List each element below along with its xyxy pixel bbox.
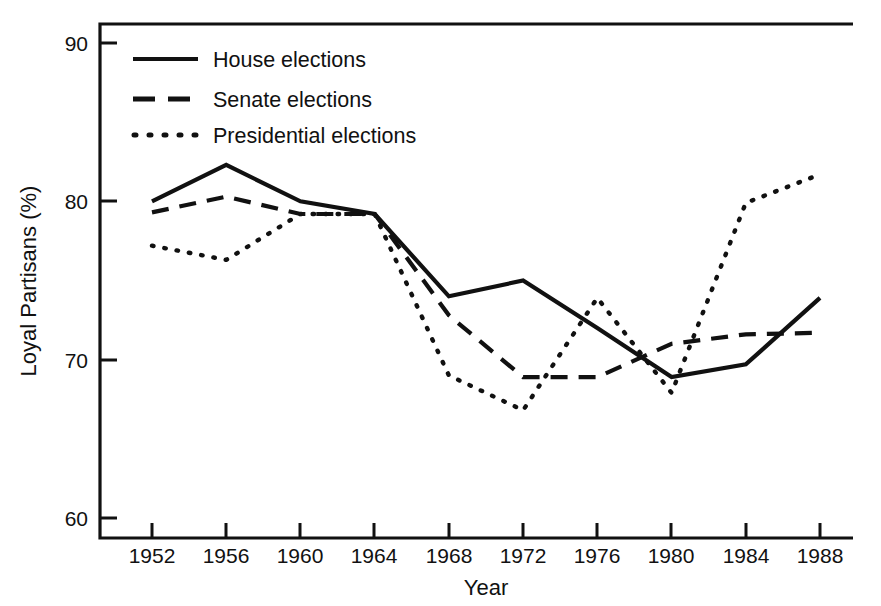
y-ticklabel-80: 80 [65,190,88,213]
y-axis-label: Loyal Partisans (%) [16,186,41,377]
chart-legend: House elections Senate elections Preside… [133,48,416,148]
series-line-presidential-elections [152,174,820,410]
legend-label-presidential-elections: Presidential elections [213,124,416,148]
y-ticklabel-60: 60 [65,507,88,530]
legend-label-senate-elections: Senate elections [213,88,372,112]
legend-item-house-elections: House elections [133,48,366,72]
line-chart: 90 80 70 60 Loyal Partisans (%) 1952 195… [0,0,881,606]
legend-item-senate-elections: Senate elections [133,88,372,112]
x-ticklabel-1988: 1988 [797,544,844,567]
x-ticklabel-1980: 1980 [648,544,695,567]
series-group [152,165,820,410]
x-ticklabel-1984: 1984 [723,544,770,567]
x-ticklabel-1976: 1976 [574,544,621,567]
x-ticklabel-1956: 1956 [203,544,250,567]
x-axis-ticks [152,523,820,538]
chart-figure: 90 80 70 60 Loyal Partisans (%) 1952 195… [0,0,881,606]
legend-label-house-elections: House elections [213,48,366,72]
x-ticklabel-1964: 1964 [351,544,398,567]
x-ticklabel-1972: 1972 [500,544,547,567]
y-axis-tick-labels: 90 80 70 60 [65,32,88,530]
y-ticklabel-90: 90 [65,32,88,55]
y-axis-ticks [100,43,117,518]
x-axis-tick-labels: 1952 1956 1960 1964 1968 1972 1976 1980 … [129,544,844,567]
y-ticklabel-70: 70 [65,349,88,372]
x-ticklabel-1960: 1960 [277,544,324,567]
x-ticklabel-1968: 1968 [426,544,473,567]
legend-item-presidential-elections: Presidential elections [134,124,416,148]
x-ticklabel-1952: 1952 [129,544,176,567]
x-axis-label: Year [464,575,508,600]
